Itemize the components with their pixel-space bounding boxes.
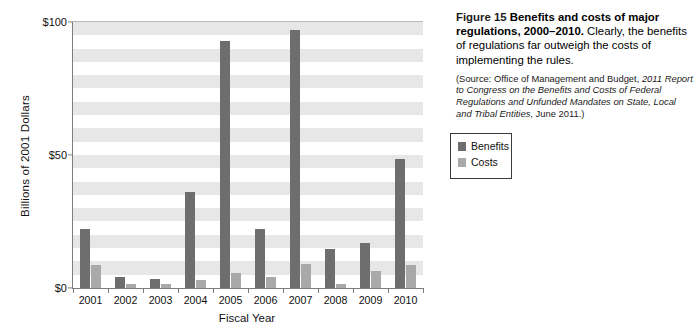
bar-group	[318, 22, 353, 288]
chart-panel: Billions of 2001 Dollars $0$50$100 20012…	[0, 0, 430, 336]
caption: Figure 15 Benefits and costs of major re…	[456, 10, 694, 119]
bar-group	[388, 22, 423, 288]
legend-label-costs: Costs	[471, 156, 498, 168]
x-axis-tick-label: 2003	[149, 294, 173, 306]
bar-group	[353, 22, 388, 288]
caption-source-prefix: (Source:	[456, 73, 491, 84]
y-axis-title: Billions of 2001 Dollars	[19, 56, 31, 256]
x-axis-tick-label: 2004	[184, 294, 208, 306]
x-axis-tick-mark	[283, 288, 284, 293]
x-axis-tick-mark	[318, 288, 319, 293]
y-axis-tick-label: $100	[43, 16, 67, 28]
x-axis-tick-label: 2002	[114, 294, 138, 306]
bar-group	[283, 22, 318, 288]
bar-group	[248, 22, 283, 288]
bar-costs-2006	[266, 277, 276, 288]
legend-item-benefits: Benefits	[458, 140, 511, 152]
bar-group	[178, 22, 213, 288]
caption-figure-label: Figure 15	[456, 11, 507, 23]
bar-benefits-2008	[325, 249, 335, 288]
legend-swatch-costs-icon	[458, 158, 466, 167]
y-axis-tick-label: $50	[49, 149, 67, 161]
x-axis-tick-mark	[248, 288, 249, 293]
x-axis-tick-mark	[213, 288, 214, 293]
page-edge	[0, 332, 699, 336]
x-axis-tick-label: 2006	[254, 294, 278, 306]
bar-benefits-2002	[115, 277, 125, 288]
figure-container: Billions of 2001 Dollars $0$50$100 20012…	[0, 0, 699, 336]
legend-label-benefits: Benefits	[471, 140, 509, 152]
plot-area: $0$50$100 200120022003200420052006200720…	[72, 22, 423, 289]
bar-benefits-2003	[150, 279, 160, 288]
bar-group	[213, 22, 248, 288]
caption-source-suffix: , June 2011.)	[530, 108, 584, 119]
bar-benefits-2001	[80, 229, 90, 288]
legend-item-costs: Costs	[458, 156, 511, 168]
bar-benefits-2005	[220, 41, 230, 288]
x-axis-tick-label: 2008	[324, 294, 348, 306]
bar-benefits-2006	[255, 229, 265, 288]
bar-costs-2010	[406, 265, 416, 288]
bar-benefits-2010	[395, 159, 405, 288]
y-axis-tick-label: $0	[55, 282, 67, 294]
caption-source: (Source: Office of Management and Budget…	[456, 73, 694, 119]
x-axis-tick-mark	[423, 288, 424, 293]
x-axis-tick-mark	[353, 288, 354, 293]
x-axis-tick-mark	[143, 288, 144, 293]
bar-costs-2007	[301, 264, 311, 288]
y-axis-tick-mark	[68, 154, 73, 155]
bar-benefits-2007	[290, 30, 300, 288]
x-axis-tick-mark	[388, 288, 389, 293]
y-axis-tick-mark	[68, 21, 73, 22]
x-axis-tick-mark	[178, 288, 179, 293]
bar-costs-2001	[91, 265, 101, 288]
x-axis-title: Fiscal Year	[72, 312, 422, 324]
bar-costs-2004	[196, 280, 206, 288]
bar-group	[108, 22, 143, 288]
bar-group	[73, 22, 108, 288]
bar-series-container	[73, 22, 423, 288]
x-axis-tick-label: 2005	[219, 294, 243, 306]
legend-swatch-benefits-icon	[458, 142, 466, 151]
bar-benefits-2004	[185, 192, 195, 288]
caption-source-agency: Office of Management and Budget,	[491, 73, 641, 84]
x-axis-tick-mark	[108, 288, 109, 293]
x-axis-tick-mark	[73, 288, 74, 293]
bar-costs-2009	[371, 271, 381, 288]
x-axis-ticks: 2001200220032004200520062007200820092010	[73, 288, 423, 310]
x-axis-tick-label: 2010	[394, 294, 418, 306]
bar-group	[143, 22, 178, 288]
caption-main: Figure 15 Benefits and costs of major re…	[456, 10, 694, 67]
bar-costs-2005	[231, 273, 241, 288]
x-axis-tick-label: 2009	[359, 294, 383, 306]
legend-box: Benefits Costs	[450, 133, 512, 179]
x-axis-tick-label: 2001	[79, 294, 103, 306]
x-axis-tick-label: 2007	[289, 294, 313, 306]
bar-benefits-2009	[360, 243, 370, 288]
